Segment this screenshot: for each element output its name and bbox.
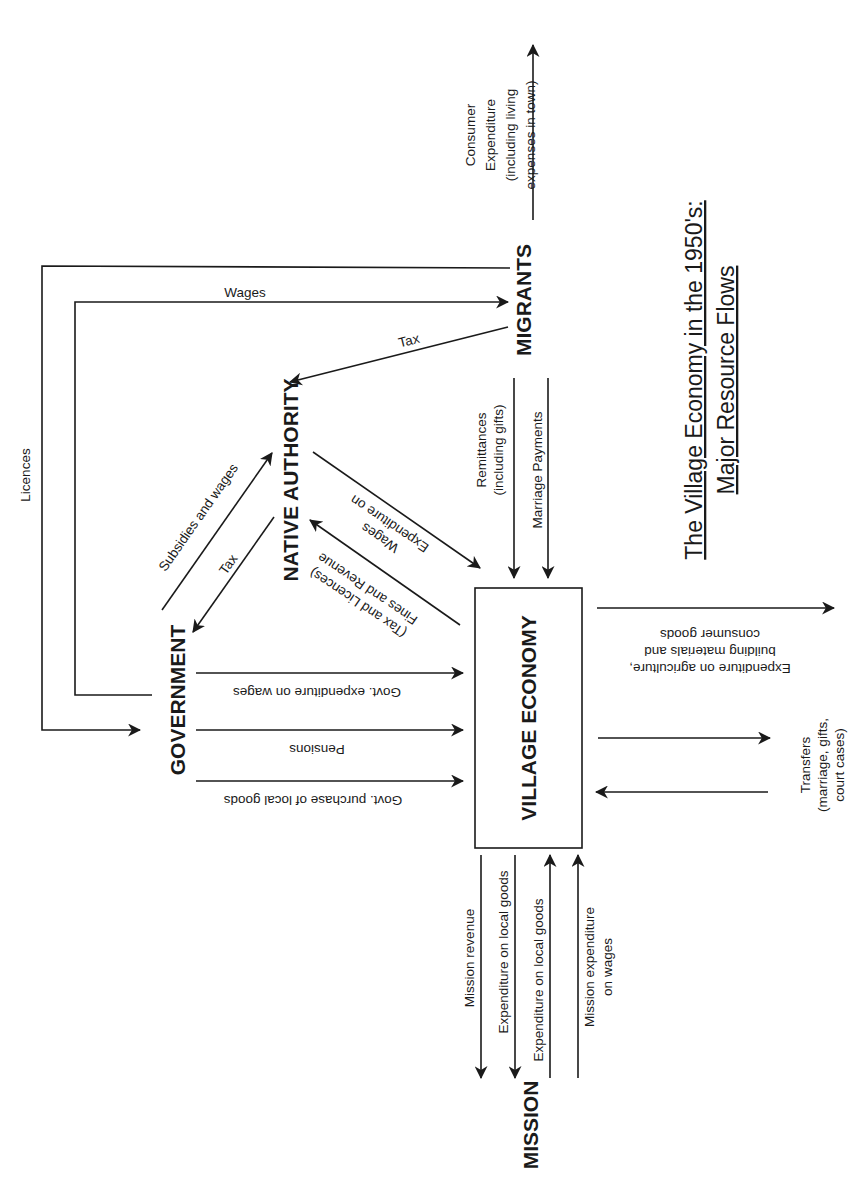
label-na-tax: Tax [216,551,240,577]
label-govt-purchase-local-goods: Govt. purchase of local goods [223,793,402,808]
label-mission-revenue: Mission revenue [462,909,477,1007]
label-pensions: Pensions [289,742,345,757]
node-mission: MISSION [519,1081,542,1170]
svg-text:(marriage, gifts,: (marriage, gifts, [815,718,830,812]
label-consumer-expenditure: Consumer Expenditure (including living e… [463,81,538,190]
label-licences: Licences [18,448,33,502]
label-expenditure-local-goods-to-mission: Expenditure on local goods [496,870,511,1033]
label-migrant-tax: Tax [397,331,421,351]
node-migrants: MIGRANTS [512,244,535,356]
label-transfers: Transfers (marriage, gifts, court cases) [798,718,847,812]
svg-text:Remittances: Remittances [474,412,489,487]
node-government: GOVERNMENT [166,625,189,776]
svg-text:building materials and: building materials and [644,644,775,659]
node-village-economy: VILLAGE ECONOMY [517,615,540,820]
label-na-expenditure-wages: Expenditure on Wages [338,492,431,569]
svg-text:Mission expenditure: Mission expenditure [582,907,597,1027]
svg-text:on wages: on wages [600,938,615,996]
label-expenditure-local-goods-from-mission: Expenditure on local goods [531,898,546,1061]
arrow-licences [42,266,510,730]
diagram-title: The Village Economy in the 1950's: Major… [681,200,739,559]
svg-text:Expenditure: Expenditure [483,99,498,171]
title-line-2: Major Resource Flows [713,266,739,495]
label-village-expenditure: Expenditure on agriculture, building mat… [629,627,790,676]
title-line-1: The Village Economy in the 1950's: [681,200,707,559]
svg-text:consumer goods: consumer goods [660,627,760,642]
label-wages: Wages [224,285,266,300]
resource-flow-diagram: The Village Economy in the 1950's: Major… [0,0,864,1187]
svg-text:Transfers: Transfers [798,736,813,793]
node-native-authority: NATIVE AUTHORITY [279,379,302,582]
svg-text:(including gifts): (including gifts) [491,405,506,496]
label-govt-expenditure-wages: Govt. expenditure on wages [233,685,401,700]
svg-text:Consumer: Consumer [463,103,478,166]
svg-text:court cases): court cases) [832,728,847,802]
label-mission-expenditure-wages: Mission expenditure on wages [582,907,615,1027]
svg-text:expenses in town): expenses in town) [523,81,538,190]
label-remittances: Remittances (including gifts) [474,405,506,496]
arrow-na-tax [193,517,274,632]
svg-text:(including living: (including living [503,89,518,181]
svg-text:Expenditure on agriculture,: Expenditure on agriculture, [629,661,790,676]
label-fines-revenue: Fines and Revenue (Tax and Licences) [305,550,420,642]
label-marriage-payments: Marriage Payments [530,411,545,528]
